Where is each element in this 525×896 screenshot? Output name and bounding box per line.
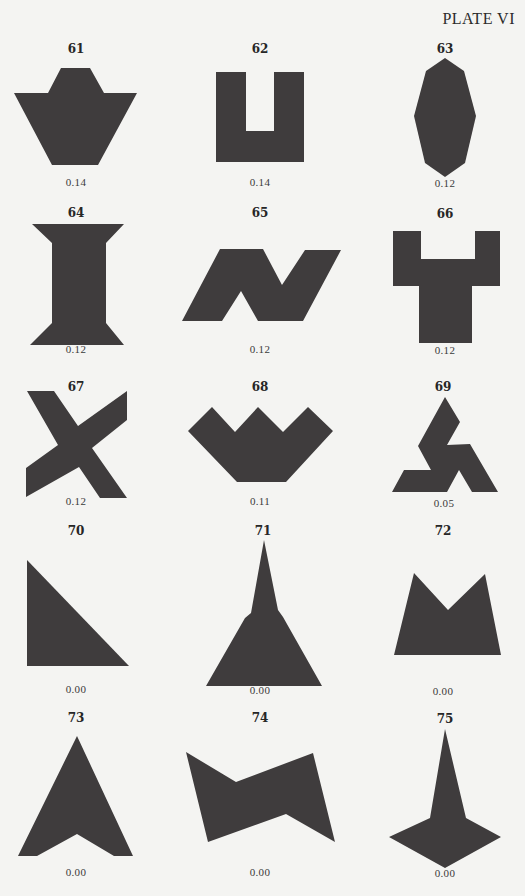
figure-74-number: 74	[252, 711, 269, 725]
figure-70-number: 70	[68, 524, 85, 538]
figure-67-number: 67	[68, 380, 85, 394]
figure-65-value: 0.12	[250, 343, 270, 355]
figure-70-value: 0.00	[66, 683, 86, 695]
figure-61-number: 61	[68, 42, 85, 56]
figure-65-number: 65	[252, 206, 269, 220]
figure-71-shape	[206, 540, 322, 686]
figure-67-value: 0.12	[66, 495, 86, 507]
figure-72-shape	[394, 573, 501, 655]
figure-73-number: 73	[68, 711, 85, 725]
figure-72-number: 72	[435, 524, 452, 538]
figure-64-number: 64	[68, 206, 85, 220]
figure-66-shape	[393, 231, 500, 343]
figure-69-shape	[392, 397, 498, 492]
figure-65-shape	[182, 249, 341, 321]
figure-61-shape	[14, 68, 137, 165]
figure-74-value: 0.00	[250, 866, 270, 878]
figure-62-value: 0.14	[250, 176, 270, 188]
figure-73-shape	[18, 736, 133, 856]
figure-75-shape	[389, 729, 501, 868]
figure-70-shape	[27, 560, 129, 666]
figure-63-value: 0.12	[435, 177, 455, 189]
figure-75-value: 0.00	[435, 867, 455, 879]
figure-68-shape	[188, 407, 333, 482]
figure-73-value: 0.00	[66, 866, 86, 878]
figure-62-shape	[216, 72, 304, 162]
figure-67-shape	[26, 391, 127, 498]
figure-72-value: 0.00	[433, 685, 453, 697]
figure-66-number: 66	[437, 207, 454, 221]
figure-63-shape	[414, 58, 476, 177]
figure-71-value: 0.00	[250, 684, 270, 696]
figure-62-number: 62	[252, 42, 269, 56]
figure-64-value: 0.12	[66, 343, 86, 355]
figure-74-shape	[186, 752, 335, 842]
figure-64-shape	[30, 224, 124, 345]
figure-69-number: 69	[435, 380, 452, 394]
figure-68-number: 68	[252, 380, 269, 394]
figure-68-value: 0.11	[250, 495, 270, 507]
shapes-canvas	[0, 0, 525, 896]
figure-66-value: 0.12	[435, 344, 455, 356]
figure-69-value: 0.05	[434, 497, 454, 509]
figure-71-number: 71	[255, 524, 272, 538]
figure-61-value: 0.14	[66, 176, 86, 188]
figure-75-number: 75	[437, 712, 454, 726]
figure-63-number: 63	[437, 42, 454, 56]
